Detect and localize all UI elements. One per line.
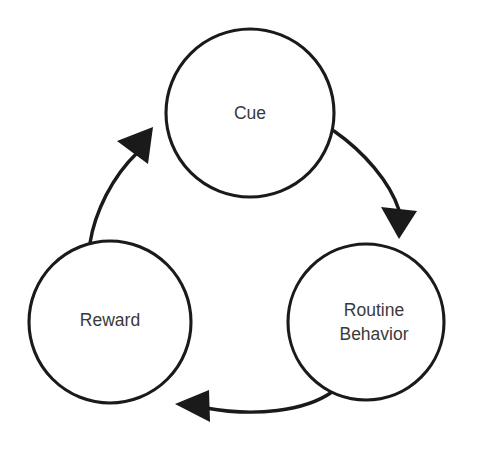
arrow-reward-to-cue <box>90 127 153 243</box>
node-routine-behavior-label-line2: Behavior <box>339 324 408 344</box>
node-cue-label: Cue <box>234 103 266 123</box>
node-routine-behavior[interactable]: Routine Behavior <box>288 244 444 400</box>
arrow-routine-to-reward-path <box>206 392 332 412</box>
arrow-cue-to-routine-path <box>334 131 399 210</box>
arrow-reward-to-cue-path <box>90 153 137 243</box>
arrow-routine-to-reward <box>175 390 332 422</box>
arrow-reward-to-cue-head <box>117 127 153 164</box>
arrow-routine-to-reward-head <box>175 390 210 422</box>
node-cue[interactable]: Cue <box>166 29 334 197</box>
habit-loop-canvas: Cue Routine Behavior Reward <box>0 0 491 451</box>
habit-loop-diagram: Cue Routine Behavior Reward <box>0 0 491 451</box>
arrow-cue-to-routine <box>334 131 417 239</box>
arrow-cue-to-routine-head <box>381 207 417 239</box>
node-reward-label: Reward <box>80 310 140 330</box>
node-routine-behavior-circle[interactable] <box>288 244 444 400</box>
node-reward[interactable]: Reward <box>29 241 191 403</box>
node-routine-behavior-label-line1: Routine <box>344 300 404 320</box>
